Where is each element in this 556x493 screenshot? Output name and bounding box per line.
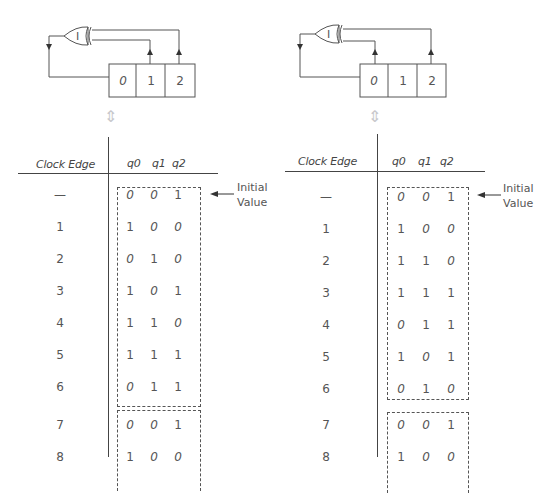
header-q0: q0 xyxy=(127,157,141,170)
note-line-1: Initial xyxy=(503,181,533,196)
edge-2: 2 xyxy=(40,252,80,266)
bit: 0 xyxy=(146,188,162,202)
bit: 1 xyxy=(122,316,138,330)
bit: 0 xyxy=(122,380,138,394)
bit: 1 xyxy=(170,284,186,298)
register-cell-2: 2 xyxy=(418,74,446,88)
bit: 0 xyxy=(146,284,162,298)
bit: 1 xyxy=(443,190,459,204)
left-lfsr-panel: I 0 1 2 ⇕ Clock Edge q0 q1 q2 — 0 0 1 1 … xyxy=(0,0,278,487)
header-q0: q0 xyxy=(392,155,406,168)
table-divider-vertical xyxy=(108,137,109,457)
bit: 1 xyxy=(146,252,162,266)
edge-2: 2 xyxy=(306,254,346,268)
bit: 0 xyxy=(146,220,162,234)
bit: 1 xyxy=(122,284,138,298)
bit: 1 xyxy=(418,286,434,300)
bit: 1 xyxy=(170,380,186,394)
register-cell-0: 0 xyxy=(109,74,137,88)
bit: 1 xyxy=(170,188,186,202)
gate-label: I xyxy=(327,28,330,41)
header-q2: q2 xyxy=(172,157,186,170)
bit: 1 xyxy=(146,348,162,362)
bit: 1 xyxy=(393,286,409,300)
register-cell-1: 1 xyxy=(137,74,165,88)
bit: 0 xyxy=(170,450,186,464)
gate-label: I xyxy=(76,30,79,43)
header-clock-edge: Clock Edge xyxy=(36,158,95,171)
right-lfsr-circuit: I xyxy=(278,0,556,100)
header-q1: q1 xyxy=(152,157,166,170)
right-lfsr-panel: I 0 1 2 ⇕ Clock Edge q0 q1 q2 — 0 0 1 1 … xyxy=(278,0,556,487)
table-divider-vertical xyxy=(377,134,378,457)
bit: 0 xyxy=(418,350,434,364)
initial-value-note: Initial Value xyxy=(503,181,533,211)
bit: 0 xyxy=(418,450,434,464)
initial-value-note: Initial Value xyxy=(237,180,267,210)
bit: 0 xyxy=(170,252,186,266)
register-cell-0: 0 xyxy=(360,74,388,88)
bit: 1 xyxy=(443,318,459,332)
header-q1: q1 xyxy=(418,155,432,168)
edge-3: 3 xyxy=(40,284,80,298)
bit: 1 xyxy=(146,380,162,394)
bit: 0 xyxy=(122,188,138,202)
bit: 0 xyxy=(418,222,434,236)
double-arrow-icon: ⇕ xyxy=(368,107,381,126)
edge-4: 4 xyxy=(306,318,346,332)
bit: 0 xyxy=(418,418,434,432)
bit: 1 xyxy=(443,350,459,364)
bit: 1 xyxy=(418,382,434,396)
edge-0: — xyxy=(40,188,80,202)
bit: 1 xyxy=(393,450,409,464)
note-line-1: Initial xyxy=(237,180,267,195)
edge-1: 1 xyxy=(40,220,80,234)
edge-3: 3 xyxy=(306,286,346,300)
edge-6: 6 xyxy=(40,380,80,394)
bit: 0 xyxy=(443,254,459,268)
edge-4: 4 xyxy=(40,316,80,330)
bit: 1 xyxy=(393,254,409,268)
bit: 0 xyxy=(393,418,409,432)
bit: 1 xyxy=(122,348,138,362)
edge-0: — xyxy=(306,190,346,204)
bit: 0 xyxy=(443,450,459,464)
bit: 0 xyxy=(146,418,162,432)
table-divider-horizontal xyxy=(18,173,218,174)
edge-7: 7 xyxy=(40,418,80,432)
edge-5: 5 xyxy=(306,350,346,364)
bit: 0 xyxy=(146,450,162,464)
note-line-2: Value xyxy=(503,196,533,211)
bit: 1 xyxy=(170,418,186,432)
bit: 1 xyxy=(393,350,409,364)
bit: 1 xyxy=(170,348,186,362)
bit: 0 xyxy=(393,382,409,396)
double-arrow-icon: ⇕ xyxy=(104,107,117,126)
register-cell-2: 2 xyxy=(166,74,194,88)
bit: 0 xyxy=(122,418,138,432)
bit: 1 xyxy=(443,418,459,432)
bit: 1 xyxy=(418,254,434,268)
bit: 0 xyxy=(418,190,434,204)
register-cell-1: 1 xyxy=(389,74,417,88)
edge-8: 8 xyxy=(40,450,80,464)
header-clock-edge: Clock Edge xyxy=(298,155,357,168)
initial-value-arrow-icon xyxy=(210,189,236,199)
bit: 0 xyxy=(393,190,409,204)
edge-8: 8 xyxy=(306,450,346,464)
edge-7: 7 xyxy=(306,418,346,432)
edge-1: 1 xyxy=(306,222,346,236)
initial-value-arrow-icon xyxy=(477,190,503,200)
table-divider-horizontal xyxy=(285,171,485,172)
bit: 1 xyxy=(122,220,138,234)
bit: 0 xyxy=(443,382,459,396)
note-line-2: Value xyxy=(237,195,267,210)
bit: 1 xyxy=(393,222,409,236)
edge-5: 5 xyxy=(40,348,80,362)
bit: 1 xyxy=(443,286,459,300)
bit: 0 xyxy=(122,252,138,266)
bit: 1 xyxy=(146,316,162,330)
bit: 0 xyxy=(170,316,186,330)
bit: 0 xyxy=(170,220,186,234)
edge-6: 6 xyxy=(306,382,346,396)
